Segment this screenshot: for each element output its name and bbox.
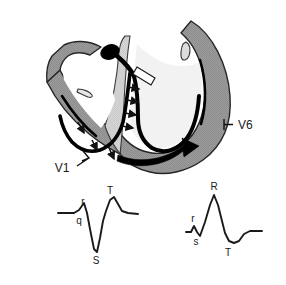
ecg-v1-label-s: S	[93, 255, 100, 266]
papillary-muscle-left	[181, 42, 190, 60]
ecg-v6-label-r-capital: R	[210, 181, 217, 192]
ecg-v6-label-r: r	[191, 213, 195, 224]
ecg-v6-label-t: T	[225, 247, 231, 258]
ecg-v1-label-t: T	[107, 185, 113, 196]
ecg-v1-waveform	[58, 197, 138, 252]
lbbb-diagram-svg: V1 V6 r q S T R r s T	[0, 0, 286, 285]
ecg-trace-v1: r q S T	[58, 185, 138, 266]
lead-label-v6: V6	[238, 118, 253, 132]
ecg-trace-v6: R r s T	[186, 181, 262, 258]
figure-canvas: V1 V6 r q S T R r s T	[0, 0, 286, 285]
ecg-v1-label-q: q	[76, 215, 82, 226]
lead-label-v1: V1	[55, 161, 70, 175]
v1-pointer-tick	[77, 151, 89, 166]
lead-marker-v1: V1	[55, 151, 89, 175]
ecg-v6-label-s: s	[194, 236, 199, 247]
